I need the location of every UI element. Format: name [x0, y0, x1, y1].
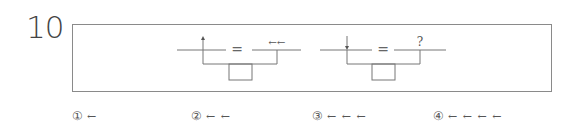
- left-arrows-label: ←←: [269, 37, 286, 48]
- left-arrow-icon: ← ←: [206, 110, 231, 123]
- right-equals: =: [377, 41, 389, 57]
- left-arrow-icon: ← ← ← ←: [448, 110, 502, 123]
- left-arrow-icon: ← ← ←: [327, 110, 367, 123]
- left-arrow-icon: ←: [87, 110, 97, 123]
- left-equals: =: [231, 41, 243, 57]
- option-2[interactable]: ②← ←: [191, 109, 231, 123]
- option-1[interactable]: ①←: [72, 109, 97, 123]
- option-3[interactable]: ③← ← ←: [312, 109, 367, 123]
- option-4[interactable]: ④← ← ← ←: [433, 109, 502, 123]
- up-arrow-head-icon: [201, 36, 205, 40]
- question-mark-label: ?: [417, 35, 423, 49]
- down-arrow-head-icon: [345, 46, 349, 50]
